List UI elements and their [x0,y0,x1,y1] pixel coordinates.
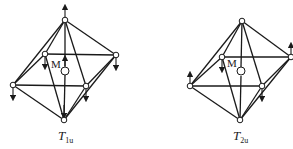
ligand-atom-right [288,54,293,60]
ligand-atom-left [187,83,193,89]
ligand-atom-front-right [259,83,265,89]
t1u-octahedron [10,7,119,123]
ligand-atom-top [62,17,68,23]
metal-atom [61,67,69,75]
t2u-octahedron [187,18,293,123]
mode-label-t1u: T1u [58,128,73,145]
ligand-atom-right [113,52,119,58]
ligand-atom-back-left [42,51,48,57]
metal-label-t1u: M [51,58,61,70]
ligand-atom-front-right [83,83,89,89]
mode-label-sub: 2u [240,136,248,145]
ligand-atom-bottom [61,117,67,123]
ligand-atom-back-left [219,54,225,60]
mode-label-t2u: T2u [233,128,248,145]
mode-label-sub: 1u [65,136,73,145]
ligand-atom-top [239,18,245,24]
ligand-atom-left [10,82,16,88]
metal-label-t2u: M [227,57,237,69]
vibrational-modes-figure [0,0,293,149]
ligand-atom-bottom [237,117,243,123]
metal-atom [237,67,245,75]
